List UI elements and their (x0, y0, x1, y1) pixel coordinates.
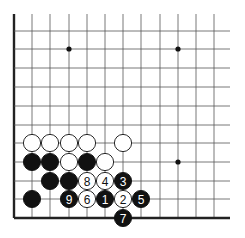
white-stone-8: 8 (78, 172, 95, 189)
black-stone (41, 172, 58, 189)
white-stone (60, 153, 77, 170)
black-stone-icon (78, 153, 95, 170)
black-stone-icon (41, 172, 58, 189)
star-point (175, 46, 180, 51)
white-stone-4: 4 (96, 172, 113, 189)
white-stone (78, 134, 95, 151)
move-number: 4 (102, 175, 109, 189)
black-stone-icon (23, 190, 40, 207)
white-stone-icon (60, 134, 77, 151)
black-stone-9: 9 (60, 190, 77, 207)
black-stone-icon (23, 153, 40, 170)
white-stone-6: 6 (78, 190, 95, 207)
star-point (175, 159, 180, 164)
white-stone (23, 134, 40, 151)
white-stone (60, 134, 77, 151)
black-stone-3: 3 (114, 172, 131, 189)
white-stone-icon (78, 134, 95, 151)
star-point (66, 46, 71, 51)
white-stone-icon (41, 134, 58, 151)
move-number: 5 (138, 193, 145, 207)
move-number: 3 (120, 175, 127, 189)
move-number: 1 (102, 193, 109, 207)
go-board: 843961257 (0, 0, 245, 238)
white-stone (114, 134, 131, 151)
black-stone (41, 153, 58, 170)
move-number: 7 (120, 212, 127, 226)
black-stone (23, 153, 40, 170)
move-number: 8 (84, 175, 91, 189)
move-number: 2 (120, 193, 127, 207)
black-stone-icon (41, 153, 58, 170)
move-number: 6 (84, 193, 91, 207)
white-stone-icon (23, 134, 40, 151)
white-stone (96, 153, 113, 170)
black-stone-5: 5 (132, 190, 149, 207)
white-stone-icon (96, 153, 113, 170)
white-stone-icon (114, 134, 131, 151)
black-stone (60, 172, 77, 189)
white-stone (41, 134, 58, 151)
black-stone-7: 7 (114, 209, 131, 226)
white-stone-icon (60, 153, 77, 170)
white-stone-2: 2 (114, 190, 131, 207)
black-stone (23, 190, 40, 207)
black-stone (78, 153, 95, 170)
move-number: 9 (66, 193, 73, 207)
black-stone-icon (60, 172, 77, 189)
stones: 843961257 (23, 134, 149, 226)
black-stone-1: 1 (96, 190, 113, 207)
